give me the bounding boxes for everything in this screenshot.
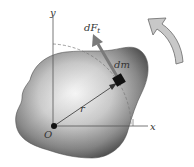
x-axis-label: x bbox=[150, 121, 156, 132]
y-axis-label: y bbox=[49, 7, 56, 18]
force-label-subscript: t bbox=[97, 27, 100, 35]
mass-element-label: dm bbox=[114, 59, 130, 70]
origin-label: O bbox=[44, 129, 52, 140]
force-label-main: dF bbox=[84, 22, 98, 33]
rotation-arrow-icon bbox=[148, 18, 183, 64]
force-label: dFt bbox=[84, 22, 100, 35]
rigid-body-diagram: y x O r dm dFt bbox=[0, 0, 194, 167]
